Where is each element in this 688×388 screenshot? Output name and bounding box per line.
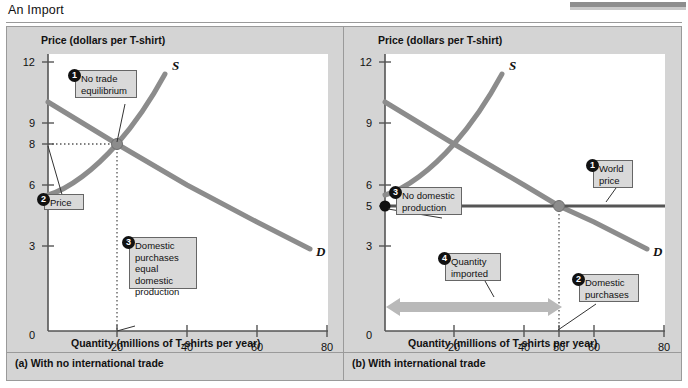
- panel-b-ytick-0: 0: [366, 329, 372, 341]
- panel-a-callout-2-badge: 2: [37, 193, 50, 206]
- panel-b-callout-4-badge: 4: [438, 252, 451, 265]
- panel-a-callout-1-line-2: equilibrium: [81, 85, 132, 97]
- panel-b-caption: (b) With international trade: [352, 357, 486, 369]
- panel-b-xtick-80: 80: [658, 341, 670, 353]
- panel-b-callout-2-line-1: Domestic: [585, 277, 634, 289]
- panel-a-ytick-12: 12: [23, 56, 35, 68]
- panel-b-demand-label: D: [652, 244, 663, 259]
- panel-b-ytick-5: 5: [366, 200, 372, 212]
- panel-b-callout-2-badge: 2: [572, 273, 585, 286]
- panel-b-callout-4: Quantity imported: [445, 253, 501, 281]
- panel-b-domestic-purchases-point: [554, 201, 565, 212]
- panel-a-callout-3-line-3: equal domestic: [135, 263, 192, 286]
- panel-b-callout-3-line-2: production: [402, 202, 457, 214]
- top-right-bar-shadow: [570, 7, 686, 10]
- panel-b-ytick-3: 3: [366, 240, 372, 252]
- panel-b-supply-label: S: [509, 58, 516, 73]
- page-title: An Import: [8, 3, 64, 17]
- panel-a-callout-3: Domestic purchases equal domestic produc…: [129, 237, 197, 289]
- panel-a-callout-2-text: Price: [50, 197, 79, 209]
- panel-b-callout-4-line-1: Quantity: [451, 256, 496, 268]
- panel-a-callout-3-line-2: purchases: [135, 252, 192, 264]
- panel-b-callout-4-line-2: imported: [451, 268, 496, 280]
- panel-b-ytick-12: 12: [360, 56, 372, 68]
- panel-a-ytick-6: 6: [29, 179, 35, 191]
- panel-b-callout-3-badge: 3: [389, 186, 402, 199]
- panel-a-ytick-8: 8: [29, 138, 35, 150]
- panel-a-ytick-3: 3: [29, 240, 35, 252]
- panel-a-callout-1-badge: 1: [68, 69, 81, 82]
- panel-b-no-production-point: [380, 201, 391, 212]
- panel-b-ytick-9: 9: [366, 117, 372, 129]
- panel-b-callout-3-line-1: No domestic: [402, 190, 457, 202]
- panel-a: Price (dollars per T-shirt) 12 9 8 6 3 0: [7, 26, 344, 381]
- header-rule: [6, 22, 682, 23]
- panel-b: Price (dollars per T-shirt) 12 9 6 5 3 0: [344, 26, 681, 381]
- panel-b-x-axis-title: Quantity (millions of T-shirts per year): [408, 337, 598, 349]
- panel-a-ytick-9: 9: [29, 117, 35, 129]
- panel-b-ytick-6: 6: [366, 179, 372, 191]
- panel-b-callout-1-line-1: World: [599, 163, 628, 175]
- panel-b-callout-1-line-2: price: [599, 175, 628, 187]
- panel-b-callout-1-badge: 1: [586, 159, 599, 172]
- panel-b-callout-3: No domestic production: [396, 187, 462, 215]
- panel-a-x-axis-title: Quantity (millions of T-shirts per year): [71, 337, 261, 349]
- panel-a-chart: 12 9 8 6 3 0 20 40 60 80 S D: [7, 26, 344, 356]
- panel-a-callout-3-badge: 3: [122, 236, 135, 249]
- panel-a-callout-1: No trade equilibrium: [75, 70, 137, 98]
- panel-a-callout-1-line-1: No trade: [81, 73, 132, 85]
- panel-a-callout-2: Price: [44, 194, 84, 210]
- panel-a-supply-label: S: [172, 58, 179, 73]
- figure-page: An Import Price (dollars per T-shirt) 12…: [0, 0, 688, 388]
- panel-b-callout-2-line-2: purchases: [585, 289, 634, 301]
- panel-a-callout-3-line-1: Domestic: [135, 240, 192, 252]
- panel-a-ytick-0: 0: [29, 329, 35, 341]
- panel-a-caption: (a) With no international trade: [15, 357, 164, 369]
- panel-b-callout-2: Domestic purchases: [579, 274, 639, 302]
- panel-a-demand-label: D: [315, 244, 326, 259]
- panel-a-callout-3-line-4: production: [135, 286, 192, 298]
- panel-a-xtick-80: 80: [321, 341, 333, 353]
- panel-b-callout-1: World price: [593, 160, 633, 188]
